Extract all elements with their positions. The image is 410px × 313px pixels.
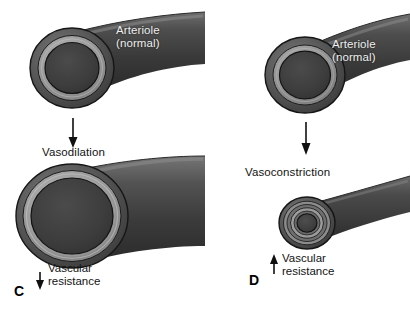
panel-c-process-arrow: [69, 118, 78, 148]
panel-c-arteriole-label: Arteriole (normal): [116, 24, 160, 49]
panel-d-resistance-arrow-icon: [270, 254, 278, 274]
panel-d-arteriole-label: Arteriole (normal): [332, 38, 376, 63]
panel-d-normal-arteriole: [265, 14, 410, 113]
panel-c-resistance-arrow-icon: [36, 272, 44, 290]
panel-d-letter: D: [249, 272, 259, 288]
panel-c-vasodilation-label: Vasodilation: [42, 146, 105, 159]
panel-c-letter: C: [14, 283, 24, 299]
panel-c-vascular-resistance-label: Vascular resistance: [48, 262, 100, 287]
panel-d-vasoconstriction-label: Vasoconstriction: [245, 166, 330, 179]
panel-d-vascular-resistance-label: Vascular resistance: [282, 252, 334, 277]
panel-d-constricted-arteriole: [279, 176, 410, 249]
panel-c-dilated-arteriole: [16, 156, 205, 268]
panel-d-process-arrow: [302, 122, 311, 155]
arteriole-vasoactivity-figure: Arteriole (normal) Vasodilation Vascular…: [0, 0, 410, 313]
